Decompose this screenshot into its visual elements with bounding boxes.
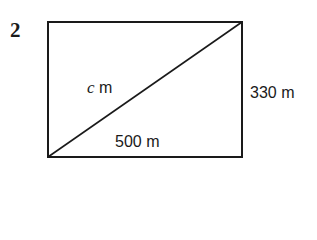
diagonal-variable: c (87, 78, 95, 97)
diagonal-label: c m (87, 78, 112, 98)
height-label: 330 m (250, 84, 294, 102)
diagonal-unit: m (99, 79, 112, 96)
width-label: 500 m (115, 133, 159, 151)
